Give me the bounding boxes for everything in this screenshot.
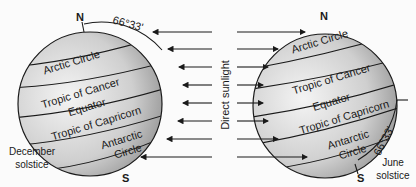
left-north-label: N [76,11,84,23]
solstice-diagram: Arctic Circle Tropic of Cancer Equator T… [0,0,416,187]
june-solstice-caption: June solstice [370,156,416,182]
left-angle-label: 66°33' [112,14,145,34]
direct-sunlight-label: Direct sunlight [219,60,231,130]
june-caption-line2: solstice [370,169,416,182]
december-caption-line2: solstice [3,158,61,171]
june-caption-line1: June [370,156,416,169]
left-south-label: S [122,172,129,184]
right-south-label: S [357,172,364,184]
december-solstice-caption: December solstice [3,145,61,171]
december-caption-line1: December [3,145,61,158]
right-north-label: N [320,10,328,22]
